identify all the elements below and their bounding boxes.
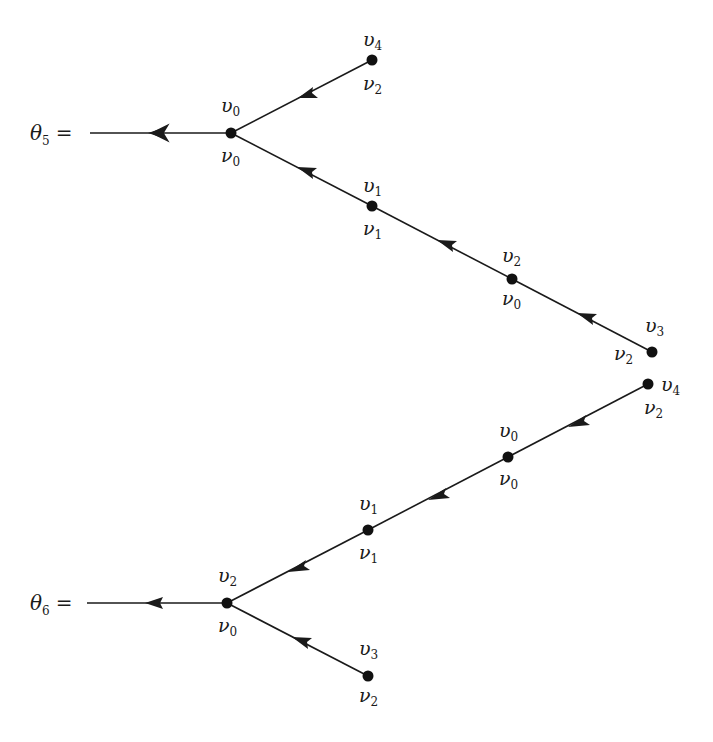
node-v4 <box>367 55 378 66</box>
theta6-nodes <box>222 379 654 682</box>
arrow-v2-icon <box>437 240 457 252</box>
label-upsilon4: υ4 <box>661 373 681 398</box>
label-upsilon3: υ3 <box>359 637 378 662</box>
label-nu2b: ν2 <box>614 342 633 367</box>
label-upsilon2: υ2 <box>218 564 237 589</box>
label-upsilon1: υ1 <box>363 174 382 199</box>
node-v1 <box>367 201 378 212</box>
tree-theta6: θ6= υ2 ν0 υ4 ν2 υ0 ν0 υ1 ν1 <box>30 373 681 709</box>
label-nu0b: ν0 <box>502 287 521 312</box>
tree-diagram-canvas: θ5= υ0 ν0 υ4 ν2 <box>0 0 713 742</box>
node-root <box>226 128 237 139</box>
arrow-v3-icon <box>577 313 597 325</box>
node-v1 <box>363 525 374 536</box>
node-v3 <box>647 347 658 358</box>
theta5-nodes <box>226 55 658 358</box>
label-nu0: ν0 <box>221 144 240 169</box>
node-v3 <box>363 671 374 682</box>
label-nu0: ν0 <box>218 614 237 639</box>
arrow-v1-icon <box>297 167 317 179</box>
node-v0 <box>503 452 514 463</box>
label-nu2b: ν2 <box>359 684 378 709</box>
label-upsilon0: υ0 <box>499 419 518 444</box>
label-upsilon4: υ4 <box>363 28 383 53</box>
label-upsilon3: υ3 <box>645 314 664 339</box>
node-root <box>222 598 233 609</box>
theta5-label: θ5= <box>30 121 72 148</box>
label-upsilon2: υ2 <box>502 244 521 269</box>
tree-theta5: θ5= υ0 ν0 υ4 ν2 <box>30 28 664 367</box>
node-v2 <box>507 274 518 285</box>
label-nu2: ν2 <box>363 72 382 97</box>
label-upsilon0: υ0 <box>221 94 240 119</box>
arrow-v3-icon <box>292 637 312 649</box>
label-nu1: ν1 <box>359 541 378 566</box>
label-nu1: ν1 <box>363 217 382 242</box>
theta6-label: θ6= <box>30 591 72 618</box>
label-nu2: ν2 <box>644 396 663 421</box>
label-nu0b: ν0 <box>499 467 518 492</box>
node-v4 <box>643 379 654 390</box>
label-upsilon1: υ1 <box>359 492 378 517</box>
